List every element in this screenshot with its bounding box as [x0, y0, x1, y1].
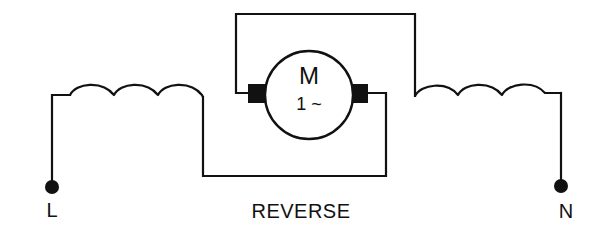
diagram-caption: REVERSE — [251, 200, 350, 222]
left-brush — [248, 84, 266, 103]
terminal-n-label: N — [559, 200, 573, 222]
right-inductor-coil — [415, 85, 561, 96]
motor: M 1 ~ — [248, 51, 368, 139]
reverse-wiring-diagram: M 1 ~ L N REVERSE — [0, 0, 603, 233]
left-terminal-lead — [52, 95, 70, 186]
terminal-n-dot-icon — [554, 179, 568, 193]
motor-phase-label: 1 ~ — [296, 94, 322, 114]
right-circuit — [415, 85, 561, 186]
terminal-l-dot-icon — [45, 180, 59, 194]
terminal-l-label: L — [46, 199, 57, 221]
motor-symbol: M — [299, 62, 319, 89]
left-inductor-coil — [70, 85, 203, 97]
